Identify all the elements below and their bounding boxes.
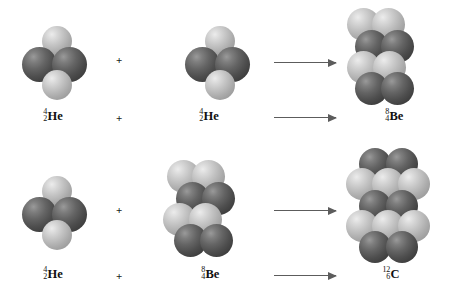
nucleon-neutron bbox=[42, 220, 72, 250]
nucleus-helium-4-row1-left bbox=[22, 26, 92, 100]
label-reactant-he4-row1-left: 4 2 He bbox=[36, 110, 63, 123]
reaction-arrow-row2-top bbox=[274, 210, 336, 211]
label-reactant-be8-row2-mid: 8 4 Be bbox=[194, 268, 219, 281]
plus-sign-row2-top: + bbox=[116, 205, 122, 216]
plus-sign-row1-top: + bbox=[116, 55, 122, 66]
reaction-arrow-row1-label bbox=[274, 117, 336, 118]
nucleon-proton bbox=[200, 224, 233, 257]
nucleus-helium-4-row2-left bbox=[22, 176, 92, 250]
plus-sign-row1-label: + bbox=[116, 113, 122, 124]
reaction-arrow-row2-label bbox=[274, 275, 336, 276]
nucleus-carbon-12-row2-right bbox=[344, 148, 439, 263]
label-reactant-he4-row1-mid: 4 2 He bbox=[192, 110, 219, 123]
nucleon-proton bbox=[386, 231, 418, 263]
nucleon-proton bbox=[381, 72, 414, 105]
fusion-diagram: + 4 2 He + 4 2 He 8 4 Be bbox=[0, 0, 452, 299]
reaction-arrow-row1-top bbox=[274, 62, 336, 63]
label-product-be8-row1: 8 4 Be bbox=[378, 110, 403, 123]
nucleus-beryllium-8-row1-right bbox=[347, 8, 429, 108]
nucleon-neutron bbox=[205, 70, 235, 100]
plus-sign-row2-label: + bbox=[116, 271, 122, 282]
label-product-c12-row2: 12 6 C bbox=[379, 268, 400, 281]
nucleus-helium-4-row1-mid bbox=[185, 26, 255, 100]
label-reactant-he4-row2-left: 4 2 He bbox=[36, 268, 63, 281]
nucleon-neutron bbox=[42, 70, 72, 100]
nucleus-beryllium-8-row2-mid bbox=[163, 160, 253, 260]
